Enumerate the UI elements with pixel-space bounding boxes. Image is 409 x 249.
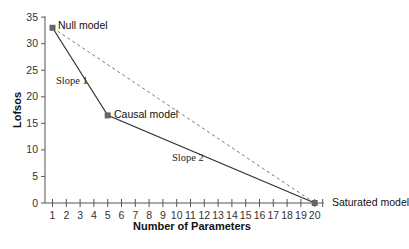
x-tick-label: 19 xyxy=(295,209,307,221)
x-tick-label: 2 xyxy=(63,209,69,221)
point-marker xyxy=(105,112,111,118)
slope-1-label: Slope 1 xyxy=(56,75,88,86)
y-tick-label: 0 xyxy=(32,197,38,209)
x-tick-label: 1 xyxy=(50,209,56,221)
null-model-label: Null model xyxy=(58,19,108,31)
y-tick-label: 20 xyxy=(26,90,38,102)
x-tick-label: 4 xyxy=(91,209,97,221)
y-axis-title: Lofsos xyxy=(11,92,23,128)
y-tick-label: 25 xyxy=(26,64,38,76)
x-axis: 1234567891011121314151617181920 xyxy=(45,199,324,221)
dashed-line xyxy=(53,28,315,203)
x-tick-label: 5 xyxy=(105,209,111,221)
slope-2-label: Slope 2 xyxy=(172,152,204,163)
y-tick-label: 30 xyxy=(26,37,38,49)
x-tick-label: 18 xyxy=(281,209,293,221)
chart: 05101520253035 1234567891011121314151617… xyxy=(0,0,409,249)
y-tick-label: 35 xyxy=(26,11,38,23)
x-axis-title: Number of Parameters xyxy=(133,220,251,232)
point-marker xyxy=(312,200,318,206)
y-axis: 05101520253035 xyxy=(26,11,45,209)
series xyxy=(53,28,315,203)
x-tick-label: 16 xyxy=(254,209,266,221)
x-tick-label: 20 xyxy=(309,209,321,221)
saturated-model-label: Saturated model xyxy=(332,196,409,208)
causal-model-label: Causal model xyxy=(114,108,178,120)
y-tick-label: 10 xyxy=(26,143,38,155)
x-tick-label: 6 xyxy=(119,209,125,221)
point-marker xyxy=(50,25,56,31)
x-tick-label: 3 xyxy=(77,209,83,221)
y-tick-label: 5 xyxy=(32,170,38,182)
y-tick-label: 15 xyxy=(26,117,38,129)
x-tick-label: 17 xyxy=(267,209,279,221)
